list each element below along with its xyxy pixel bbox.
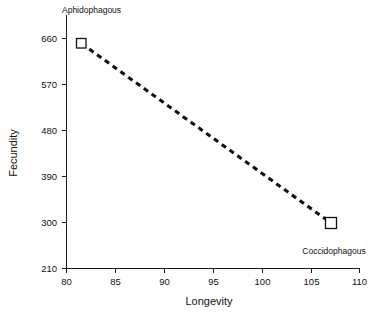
y-tick-label-660: 660 <box>41 33 57 44</box>
y-tick-label-300: 300 <box>41 217 57 228</box>
chart-background <box>0 0 381 315</box>
y-tick-label-390: 390 <box>41 171 57 182</box>
x-tick-label-110: 110 <box>352 276 367 287</box>
annotation-aphidophagous: Aphidophagous <box>62 5 121 15</box>
y-axis-title: Fecundity <box>7 129 19 177</box>
x-tick-label-90: 90 <box>159 276 170 287</box>
chart-container: 660 570 480 390 300 210 80 85 90 95 100 … <box>0 0 381 315</box>
y-tick-label-570: 570 <box>41 79 57 90</box>
x-tick-label-95: 95 <box>208 276 219 287</box>
x-tick-label-80: 80 <box>61 276 72 287</box>
y-tick-label-480: 480 <box>41 125 57 136</box>
data-point-coccidophagous <box>326 218 337 229</box>
x-axis-title: Longevity <box>185 295 233 307</box>
x-tick-label-100: 100 <box>255 276 271 287</box>
x-tick-label-85: 85 <box>110 276 121 287</box>
annotation-coccidophagous: Coccidophagous <box>302 246 365 256</box>
data-point-aphidophagous <box>77 39 87 49</box>
y-tick-label-210: 210 <box>41 263 57 274</box>
fecundity-longevity-scatter-line-chart: 660 570 480 390 300 210 80 85 90 95 100 … <box>0 0 381 315</box>
x-tick-label-105: 105 <box>304 276 320 287</box>
